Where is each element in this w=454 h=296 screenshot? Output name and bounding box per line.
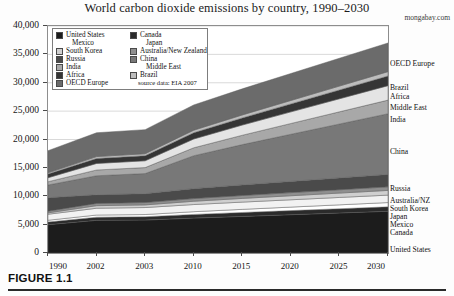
legend-swatch-icon xyxy=(130,32,137,39)
x-axis-tick-mark xyxy=(96,252,97,256)
x-axis-tick-mark xyxy=(338,252,339,256)
legend-swatch-icon xyxy=(130,48,137,55)
legend-item[interactable]: South Korea xyxy=(56,47,130,55)
x-axis-tick-mark xyxy=(193,252,194,256)
legend-item-label: Middle East xyxy=(138,63,181,71)
x-axis-tick-mark xyxy=(290,252,291,256)
x-axis-tick-label: 2002 xyxy=(87,261,105,271)
legend-item[interactable]: Canada xyxy=(130,31,204,39)
y-axis-tick-label: 15,000 xyxy=(13,162,39,172)
legend-item-label: China xyxy=(140,55,157,63)
legend-item[interactable]: Brazil xyxy=(130,71,204,79)
x-axis-tick-mark xyxy=(241,252,242,256)
x-axis-tick-label: 1990 xyxy=(49,261,67,271)
series-label: Africa xyxy=(390,92,409,101)
legend-swatch-icon xyxy=(56,41,61,46)
y-axis-tick-label: 10,000 xyxy=(13,190,39,200)
figure-caption: FIGURE 1.1 xyxy=(8,272,73,284)
legend-item[interactable]: Japan xyxy=(130,39,204,47)
legend-swatch-icon xyxy=(56,56,63,63)
x-axis-tick-label: 2025 xyxy=(329,261,347,271)
legend-swatch-icon xyxy=(130,41,135,46)
legend-item-label: Russia xyxy=(66,55,85,63)
series-label: Russia xyxy=(390,184,410,193)
legend-item-label: Mexico xyxy=(64,39,94,47)
series-label: China xyxy=(390,147,408,156)
legend-swatch-icon xyxy=(56,64,63,71)
legend-item[interactable]: Middle East xyxy=(130,63,204,71)
series-label: Canada xyxy=(390,228,413,237)
legend-swatch-icon xyxy=(56,72,63,79)
legend-item-label: South Korea xyxy=(66,47,102,55)
chart-title: World carbon dioxide emissions by countr… xyxy=(0,1,454,16)
legend-column-right: CanadaJapanAustralia/New ZealandChinaMid… xyxy=(130,31,204,87)
x-axis-tick-mark xyxy=(144,252,145,256)
legend-swatch-icon xyxy=(56,48,63,55)
watermark-label: mongabay.com xyxy=(404,13,450,22)
legend-item[interactable]: Russia xyxy=(56,55,130,63)
x-axis-tick-mark xyxy=(387,252,388,256)
legend-item[interactable]: Africa xyxy=(56,71,130,79)
legend-item[interactable]: OECD Europe xyxy=(56,79,130,87)
legend-swatch-icon xyxy=(130,56,137,63)
y-axis-tick-label: 5,000 xyxy=(18,219,39,229)
series-label: Brazil xyxy=(390,83,409,92)
y-axis: 05,00010,00015,00020,00025,00030,00035,0… xyxy=(0,25,45,252)
y-axis-tick-label: 0 xyxy=(34,247,39,257)
legend-item-label: Canada xyxy=(140,31,162,39)
legend-swatch-icon xyxy=(56,32,63,39)
legend-item[interactable]: India xyxy=(56,63,130,71)
legend-item[interactable]: United States xyxy=(56,31,130,39)
y-axis-tick-label: 20,000 xyxy=(13,134,39,144)
legend-swatch-icon xyxy=(130,72,137,79)
y-axis-tick-label: 40,000 xyxy=(13,20,39,30)
x-axis-tick-label: 2020 xyxy=(281,261,299,271)
legend-item-label: Japan xyxy=(138,39,162,47)
chart-legend: United StatesMexicoSouth KoreaRussiaIndi… xyxy=(52,28,208,90)
legend-source-note: source data: EIA 2007 xyxy=(130,79,204,87)
series-label: United States xyxy=(390,245,431,254)
y-axis-tick-label: 35,000 xyxy=(13,48,39,58)
legend-item[interactable]: Mexico xyxy=(56,39,130,47)
y-axis-tick-label: 30,000 xyxy=(13,77,39,87)
series-label-list: OECD EuropeBrazilAfricaMiddle EastIndiaC… xyxy=(390,25,454,252)
legend-item[interactable]: Australia/New Zealand xyxy=(130,47,204,55)
legend-item[interactable]: China xyxy=(130,55,204,63)
figure-container: World carbon dioxide emissions by countr… xyxy=(0,0,454,296)
y-axis-tick-label: 25,000 xyxy=(13,105,39,115)
series-label: OECD Europe xyxy=(390,59,435,68)
series-label: Middle East xyxy=(390,103,427,112)
legend-item-label: Brazil xyxy=(140,71,158,79)
x-axis-tick-mark xyxy=(47,252,48,256)
x-axis: 19902002200320102015202020252030 xyxy=(47,252,387,274)
legend-item-label: Australia/New Zealand xyxy=(140,47,207,55)
legend-item-label: United States xyxy=(66,31,105,39)
x-axis-tick-label: 2003 xyxy=(135,261,153,271)
x-axis-tick-label: 2015 xyxy=(232,261,250,271)
legend-swatch-icon xyxy=(56,80,63,87)
x-axis-tick-label: 2010 xyxy=(184,261,202,271)
legend-item-label: Africa xyxy=(66,71,84,79)
figure-caption-bar: FIGURE 1.1 xyxy=(0,272,454,296)
legend-column-left: United StatesMexicoSouth KoreaRussiaIndi… xyxy=(56,31,130,87)
legend-item-label: OECD Europe xyxy=(66,79,108,87)
legend-swatch-icon xyxy=(130,65,135,70)
x-axis-tick-label: 2030 xyxy=(367,261,385,271)
legend-item-label: India xyxy=(66,63,81,71)
series-label: India xyxy=(390,115,406,124)
caption-divider xyxy=(8,289,446,291)
